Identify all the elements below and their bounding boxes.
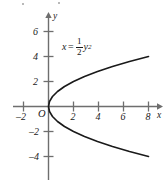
x-tick-label-2: 2 [71, 112, 76, 122]
y-axis-arrow [45, 12, 51, 18]
x-axis-label: x [157, 111, 161, 121]
equation-relation: = [68, 42, 74, 52]
equation-exponent: 2 [88, 44, 92, 51]
y-tick-label-2: 2 [33, 77, 38, 87]
x-axis-arrow [157, 103, 163, 109]
y-tick-label--4: –4 [29, 152, 39, 162]
equation-annotation: x = 1 2 y2 [62, 37, 92, 57]
origin-label: O [38, 109, 46, 120]
x-tick-label-4: 4 [96, 112, 101, 122]
y-tick-label--2: –2 [29, 127, 39, 137]
y-tick-label-4: 4 [33, 52, 38, 62]
y-tick-label-6: 6 [33, 27, 38, 37]
equation-lhs: x [62, 42, 66, 52]
x-tick-label-6: 6 [121, 112, 126, 122]
x-tick-label--2: –2 [16, 112, 26, 122]
equation-fraction: 1 2 [76, 37, 83, 57]
fraction-denominator: 2 [76, 48, 83, 58]
parabola-figure: O –2 2 4 6 8 2 4 6 –2 –4 y x x = 1 2 y2 [0, 0, 168, 190]
fraction-numerator: 1 [76, 37, 83, 47]
x-tick-label-8: 8 [146, 112, 151, 122]
plot-canvas [0, 0, 168, 190]
y-axis-label: y [53, 12, 57, 22]
